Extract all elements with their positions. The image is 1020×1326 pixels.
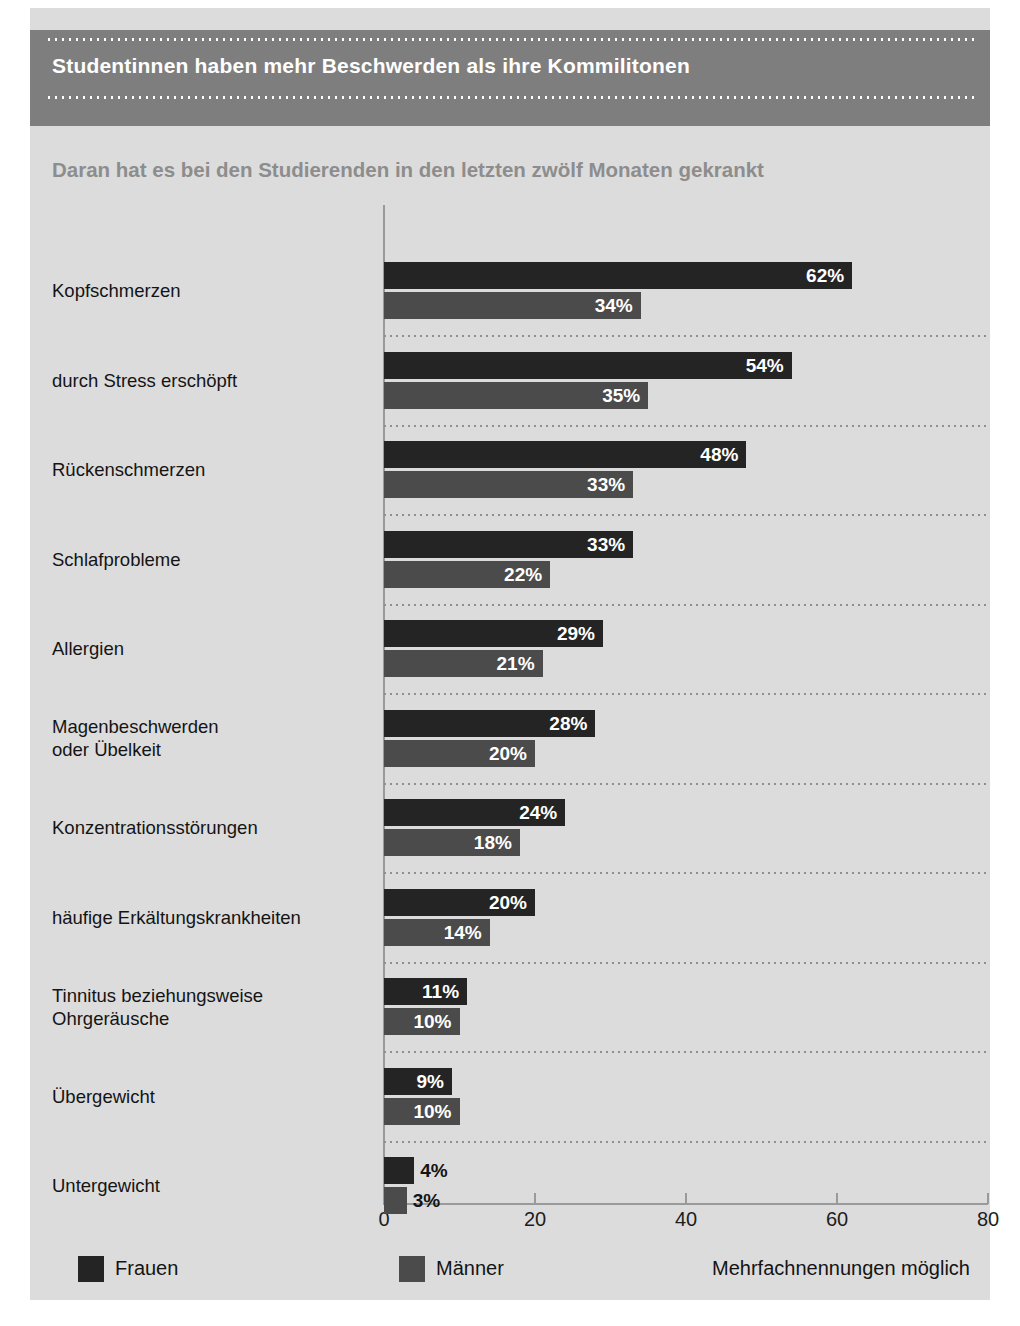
bar-value-label: 29% [551, 620, 595, 647]
bar-value-label: 34% [589, 292, 633, 319]
bar-maenner [384, 1187, 407, 1214]
group-separator [384, 335, 988, 337]
category-label: Rückenschmerzen [52, 458, 372, 481]
group-separator [384, 1141, 988, 1143]
legend-label-frauen: Frauen [115, 1257, 178, 1280]
bar-frauen [384, 441, 746, 468]
chart-footnote: Mehrfachnennungen möglich [712, 1257, 970, 1280]
bar-value-label: 10% [408, 1098, 452, 1125]
x-tick-mark [534, 1193, 536, 1204]
legend-swatch-maenner [399, 1256, 425, 1282]
group-separator [384, 1051, 988, 1053]
category-label: Magenbeschwerden oder Übelkeit [52, 715, 372, 761]
bar-value-label: 20% [483, 740, 527, 767]
bar-value-label: 33% [581, 471, 625, 498]
category-label: Tinnitus beziehungsweise Ohrgeräusche [52, 984, 372, 1030]
group-separator [384, 604, 988, 606]
infographic-panel: Studentinnen haben mehr Beschwerden als … [30, 8, 990, 1300]
x-tick-label: 60 [826, 1208, 848, 1231]
bar-value-label: 62% [800, 262, 844, 289]
bar-value-label: 3% [413, 1187, 440, 1214]
category-label: Kopfschmerzen [52, 279, 372, 302]
group-separator [384, 783, 988, 785]
bar-value-label: 11% [415, 978, 459, 1005]
group-separator [384, 693, 988, 695]
bar-value-label: 9% [400, 1068, 444, 1095]
x-tick-label: 80 [977, 1208, 999, 1231]
bar-value-label: 14% [438, 919, 482, 946]
x-tick-mark [987, 1193, 989, 1204]
group-separator [384, 872, 988, 874]
bar-value-label: 28% [543, 710, 587, 737]
bar-value-label: 48% [694, 441, 738, 468]
category-label: Untergewicht [52, 1174, 372, 1197]
chart-plot-area: 020406080 Kopfschmerzendurch Stress ersc… [30, 8, 990, 1300]
group-separator [384, 425, 988, 427]
category-label: durch Stress erschöpft [52, 369, 372, 392]
bar-frauen [384, 262, 852, 289]
bar-value-label: 24% [513, 799, 557, 826]
category-label: Konzentrationsstörungen [52, 816, 372, 839]
category-label: Übergewicht [52, 1085, 372, 1108]
bar-value-label: 21% [491, 650, 535, 677]
category-label: Allergien [52, 637, 372, 660]
bar-frauen [384, 352, 792, 379]
x-tick-mark [836, 1193, 838, 1204]
bar-value-label: 18% [468, 829, 512, 856]
bar-value-label: 35% [596, 382, 640, 409]
bar-value-label: 10% [408, 1008, 452, 1035]
x-tick-label: 20 [524, 1208, 546, 1231]
group-separator [384, 514, 988, 516]
x-tick-mark [685, 1193, 687, 1204]
x-tick-label: 40 [675, 1208, 697, 1231]
category-label: Schlafprobleme [52, 548, 372, 571]
legend-label-maenner: Männer [436, 1257, 504, 1280]
bar-value-label: 4% [420, 1157, 447, 1184]
legend-swatch-frauen [78, 1256, 104, 1282]
bar-value-label: 20% [483, 889, 527, 916]
bar-frauen [384, 1157, 414, 1184]
category-label: häufige Erkältungskrankheiten [52, 906, 372, 929]
bar-value-label: 22% [498, 561, 542, 588]
bar-value-label: 33% [581, 531, 625, 558]
group-separator [384, 962, 988, 964]
bar-value-label: 54% [740, 352, 784, 379]
